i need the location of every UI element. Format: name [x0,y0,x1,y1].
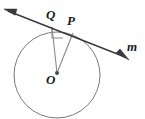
point-label-q: Q [46,7,56,22]
arrowhead-left-icon [4,9,17,16]
segment-qo [52,27,57,73]
point-label-o: O [46,72,56,87]
point-label-p: P [67,13,76,28]
diagram-canvas: Q P O m [0,0,145,119]
segment-po-radius [57,33,73,73]
line-label-m: m [127,39,137,54]
center-point-dot [55,71,59,75]
geometry-figure: Q P O m [0,0,145,119]
